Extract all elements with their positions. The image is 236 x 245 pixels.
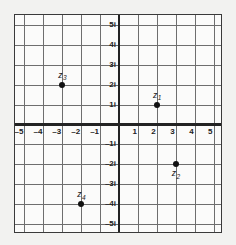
y-axis-tick-label: 3i	[109, 61, 116, 69]
y-axis-tick-label: –3i	[105, 180, 116, 188]
x-axis-tick-label: –4	[33, 128, 42, 136]
x-axis-tick-label: –2	[71, 128, 80, 136]
data-point-label-subscript: 2	[177, 173, 181, 180]
y-axis-tick-label: –4i	[105, 200, 116, 208]
data-point-marker[interactable]	[59, 82, 65, 88]
data-point-label-name: z	[153, 90, 157, 100]
data-point-label-subscript: 4	[82, 194, 86, 201]
x-axis-tick-label: –1	[90, 128, 99, 136]
x-axis-tick-label: 3	[170, 128, 174, 136]
y-axis-tick-label: 5i	[109, 21, 116, 29]
y-axis-tick-label: 1i	[109, 101, 116, 109]
data-point-label-name: z	[172, 168, 176, 178]
x-axis-tick-label: –5	[15, 128, 24, 136]
data-point-label-subscript: 1	[158, 94, 162, 101]
plot-grid-area: 5i4i3i2i1i–1i–2i–3i–4i–5i–5–4–3–2–112345…	[14, 14, 222, 233]
x-axis-tick-label: 4	[189, 128, 193, 136]
data-point-label: z4	[77, 190, 85, 199]
y-axis-tick-label: 4i	[109, 41, 116, 49]
data-point-label-subscript: 3	[63, 74, 67, 81]
data-point-label: z2	[172, 169, 180, 178]
data-point-marker[interactable]	[78, 201, 84, 207]
data-point-marker[interactable]	[173, 161, 179, 167]
x-axis-tick-label: 1	[132, 128, 136, 136]
data-point-label: z1	[153, 91, 161, 100]
data-point-label: z3	[58, 71, 66, 80]
x-axis-tick-label: 2	[151, 128, 155, 136]
data-point-label-name: z	[58, 70, 62, 80]
data-point-marker[interactable]	[154, 102, 160, 108]
x-axis-tick-label: –3	[52, 128, 61, 136]
y-axis-tick-label: 2i	[109, 81, 116, 89]
real-axis	[15, 123, 221, 126]
complex-plane-chart: 5i4i3i2i1i–1i–2i–3i–4i–5i–5–4–3–2–112345…	[0, 0, 236, 245]
y-axis-tick-label: –1i	[105, 140, 116, 148]
data-point-label-name: z	[77, 189, 81, 199]
y-axis-tick-label: –5i	[105, 220, 116, 228]
x-axis-tick-label: 5	[208, 128, 212, 136]
y-axis-tick-label: –2i	[105, 160, 116, 168]
